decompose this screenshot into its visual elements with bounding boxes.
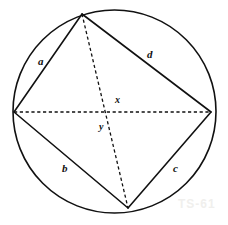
cyclic-quadrilateral-figure: a d c b x y TS-61: [0, 0, 228, 225]
geometry-canvas: [0, 0, 228, 225]
side-c-line: [128, 112, 211, 208]
watermark-text: TS-61: [178, 198, 216, 210]
side-label-a: a: [38, 56, 44, 67]
side-label-c: c: [173, 163, 178, 174]
side-d-line: [82, 14, 211, 112]
side-b-line: [14, 112, 128, 208]
diagonal-label-y: y: [99, 122, 103, 132]
side-label-d: d: [147, 49, 153, 60]
diagonal-label-x: x: [115, 95, 120, 105]
side-a-line: [14, 14, 82, 112]
side-label-b: b: [62, 163, 68, 174]
